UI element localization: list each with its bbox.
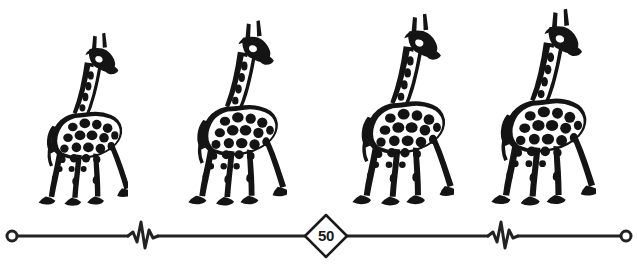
giraffe-figure-2 xyxy=(172,12,287,208)
scale-marker-value: 50 xyxy=(304,228,348,243)
giraffe-figure-3 xyxy=(336,5,454,208)
giraffe-figure-4 xyxy=(474,0,596,208)
giraffe-figure-1 xyxy=(26,25,128,208)
illustration-page: 50 xyxy=(0,0,637,280)
